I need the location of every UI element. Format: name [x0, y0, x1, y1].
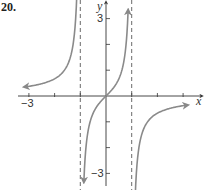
plot-area: [0, 0, 205, 190]
y-axis-label: y: [97, 0, 102, 12]
curve-right-branch: [135, 105, 187, 190]
graph-figure: 20. y 3 −3 −3 x: [0, 0, 205, 190]
y-tick-label-neg3: −3: [91, 168, 104, 179]
y-tick-label-3: 3: [97, 13, 103, 24]
x-tick-label-neg3: −3: [21, 98, 34, 109]
x-axis-label: x: [196, 95, 201, 107]
curve-left-branch: [25, 0, 77, 87]
